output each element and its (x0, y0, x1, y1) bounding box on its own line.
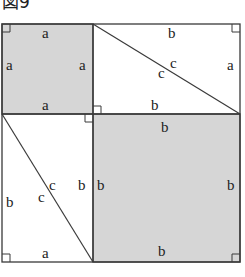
label-square-b-right: b (227, 177, 235, 193)
pythagoras-diagram: a a a a b a c c b b c c b a b b b b (0, 0, 245, 277)
right-angle-marker (85, 114, 93, 122)
label-tri-tr-bottom: b (151, 97, 159, 113)
label-square-b-bottom: b (158, 243, 166, 259)
label-square-b-top: b (161, 119, 169, 135)
label-square-a-right: a (79, 57, 86, 73)
label-tri-tr-top: b (168, 25, 176, 41)
label-tri-bl-hyp-lower: c (38, 189, 45, 205)
label-tri-bl-left: b (6, 194, 14, 210)
label-square-b-left: b (97, 177, 105, 193)
label-square-a-bottom: a (42, 97, 49, 113)
hypotenuse-top-right (93, 24, 240, 114)
label-tri-tr-hyp-upper: c (170, 55, 177, 71)
label-tri-tr-right: a (227, 57, 234, 73)
label-square-a-left: a (6, 57, 13, 73)
right-angle-marker (2, 254, 10, 262)
square-b (93, 114, 240, 262)
label-square-a-top: a (42, 25, 49, 41)
right-angle-marker (93, 106, 101, 114)
right-angle-marker (232, 24, 240, 32)
label-tri-bl-bottom: a (42, 245, 49, 261)
label-tri-bl-hyp-upper: c (49, 177, 56, 193)
label-tri-bl-right: b (78, 177, 86, 193)
label-tri-tr-hyp-lower: c (158, 65, 165, 81)
